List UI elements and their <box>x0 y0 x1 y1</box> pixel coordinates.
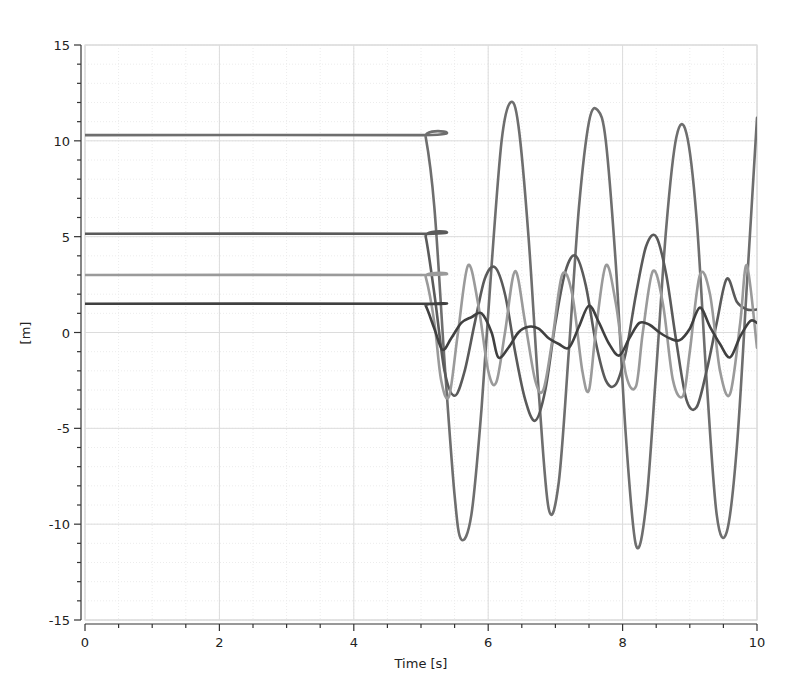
x-tick-label: 8 <box>618 635 626 650</box>
x-tick-label: 2 <box>215 635 223 650</box>
y-tick-label: 10 <box>53 134 70 149</box>
x-tick-label: 4 <box>350 635 358 650</box>
x-tick-label: 6 <box>484 635 492 650</box>
y-tick-label: -5 <box>57 421 70 436</box>
x-tick-label: 0 <box>81 635 89 650</box>
y-axis-label: [m] <box>18 322 33 345</box>
y-tick-label: 0 <box>62 326 70 341</box>
y-tick-label: -15 <box>49 613 70 628</box>
x-axis-label: Time [s] <box>394 656 448 671</box>
y-tick-label: 5 <box>62 230 70 245</box>
line-chart: -15-10-50510150246810 Time [s] [m] <box>0 0 796 698</box>
y-tick-label: -10 <box>49 517 70 532</box>
y-tick-label: 15 <box>53 38 70 53</box>
x-tick-label: 10 <box>749 635 766 650</box>
